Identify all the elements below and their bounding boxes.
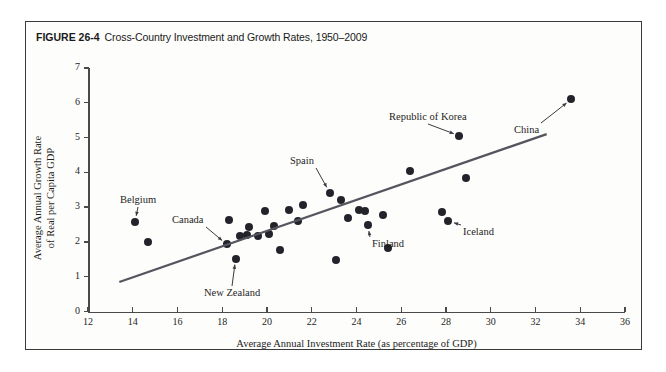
figure-caption: Cross-Country Investment and Growth Rate… [105, 31, 368, 43]
figure-border [25, 21, 642, 350]
figure-title: FIGURE 26-4Cross-Country Investment and … [36, 31, 367, 43]
figure-number: FIGURE 26-4 [36, 31, 100, 43]
